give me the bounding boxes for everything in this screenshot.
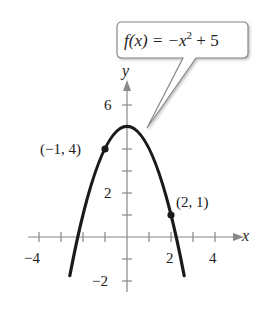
y-tick-label-6: 6 [104,97,112,113]
function-label: f(x) = −x2 + 5 [124,29,219,50]
x-axis [28,232,244,242]
x-axis-label: x [241,227,249,244]
y-axis-label: y [120,62,130,80]
point-2-1 [167,211,174,218]
x-tick-label-4: 4 [209,250,217,266]
y-axis-arrow-icon [123,80,131,91]
point-neg1-4 [101,145,108,152]
y-tick-label-2: 2 [104,185,112,201]
point-label-neg1-4: (−1, 4) [40,141,81,158]
function-graph: −4 2 4 6 2 −2 x y (−1, 4) (2, 1) f(x) = … [0,0,267,310]
point-label-2-1: (2, 1) [176,194,209,211]
x-tick-label-neg4: −4 [24,250,40,266]
y-tick-label-neg2: −2 [92,273,108,289]
y-axis [122,80,132,292]
x-tick-label-2: 2 [166,250,174,266]
